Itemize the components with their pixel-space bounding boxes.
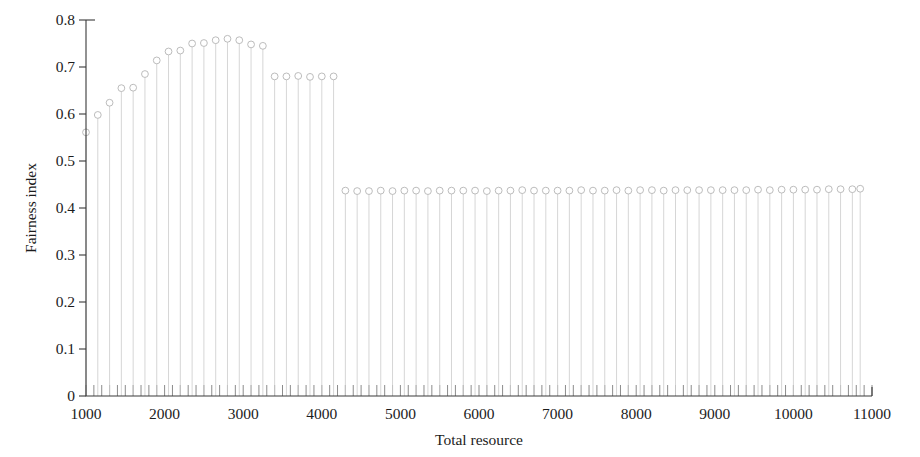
stem-marker xyxy=(554,187,561,194)
stem-series xyxy=(83,35,864,396)
x-tick-label: 6000 xyxy=(464,405,495,422)
stem-marker xyxy=(696,187,703,194)
stem-marker xyxy=(401,187,408,194)
stem-marker xyxy=(425,188,432,195)
x-axis-ticks: 1000200030004000500060007000800090001000… xyxy=(71,405,892,422)
stem-marker xyxy=(849,186,856,193)
stem-marker xyxy=(354,188,361,195)
x-tick-label: 3000 xyxy=(228,405,259,422)
stem-marker xyxy=(295,73,302,80)
x-tick-label: 4000 xyxy=(306,405,337,422)
chart-page: 00.10.20.30.40.50.60.70.8100020003000400… xyxy=(0,0,920,457)
stem-marker xyxy=(460,187,467,194)
stem-marker xyxy=(731,187,738,194)
stem-marker xyxy=(495,187,502,194)
chart-canvas: 00.10.20.30.40.50.60.70.8100020003000400… xyxy=(0,0,920,457)
stem-marker xyxy=(519,187,526,194)
stem-marker xyxy=(743,187,750,194)
y-tick-label: 0.7 xyxy=(56,58,76,75)
stem-marker xyxy=(719,187,726,194)
stem-marker xyxy=(637,187,644,194)
y-tick-label: 0.5 xyxy=(56,152,76,169)
x-tick-label: 5000 xyxy=(385,405,416,422)
stem-marker xyxy=(389,188,396,195)
x-tick-label: 1000 xyxy=(71,405,102,422)
stem-marker xyxy=(542,187,549,194)
x-tick-label: 2000 xyxy=(149,405,180,422)
x-tick-label: 9000 xyxy=(699,405,730,422)
stem-marker xyxy=(377,187,384,194)
stem-marker xyxy=(130,84,137,91)
stem-marker xyxy=(531,187,538,194)
stem-marker xyxy=(307,73,314,80)
stem-marker xyxy=(283,73,290,80)
stem-marker xyxy=(201,40,208,47)
stem-marker xyxy=(413,187,420,194)
stem-marker xyxy=(259,42,266,49)
y-tick-label: 0.6 xyxy=(56,105,76,122)
stem-marker xyxy=(436,187,443,194)
stem-marker xyxy=(118,85,125,92)
stem-marker xyxy=(684,187,691,194)
stem-marker xyxy=(165,48,172,55)
stem-marker xyxy=(649,187,656,194)
y-tick-label: 0 xyxy=(67,387,75,404)
stem-marker xyxy=(330,73,337,80)
stem-marker xyxy=(189,40,196,47)
y-tick-label: 0.4 xyxy=(56,199,76,216)
x-tick-label: 10000 xyxy=(774,405,813,422)
stem-marker xyxy=(472,187,479,194)
stem-marker xyxy=(578,187,585,194)
stem-marker xyxy=(790,186,797,193)
stem-marker xyxy=(857,185,864,192)
y-tick-label: 0.2 xyxy=(56,293,75,310)
stem-marker xyxy=(342,187,349,194)
stem-marker xyxy=(366,188,373,195)
stem-marker xyxy=(236,37,243,44)
y-tick-label: 0.3 xyxy=(56,246,76,263)
stem-marker xyxy=(707,187,714,194)
stem-marker xyxy=(766,187,773,194)
stem-marker xyxy=(448,187,455,194)
stem-marker xyxy=(153,57,160,64)
stem-marker xyxy=(590,187,597,194)
stem-marker xyxy=(142,71,149,78)
stem-marker xyxy=(802,186,809,193)
x-axis-title: Total resource xyxy=(435,431,523,448)
stem-marker xyxy=(271,73,278,80)
stem-marker xyxy=(613,187,620,194)
y-axis-ticks: 00.10.20.30.40.50.60.70.8 xyxy=(56,11,86,404)
stem-marker xyxy=(625,187,632,194)
stem-marker xyxy=(755,186,762,193)
y-axis-title: Fairness index xyxy=(22,163,39,253)
x-tick-label: 8000 xyxy=(621,405,652,422)
y-tick-label: 0.1 xyxy=(56,340,75,357)
stem-marker xyxy=(660,187,667,194)
stem-marker xyxy=(778,186,785,193)
stem-marker xyxy=(224,35,231,42)
stem-marker xyxy=(318,73,325,80)
stem-marker xyxy=(837,186,844,193)
stem-marker xyxy=(672,187,679,194)
stem-marker xyxy=(248,41,255,48)
stem-marker xyxy=(94,112,101,119)
stem-marker xyxy=(483,188,490,195)
stem-marker xyxy=(212,37,219,44)
stem-marker xyxy=(566,187,573,194)
stem-marker xyxy=(814,186,821,193)
stem-marker xyxy=(106,99,113,106)
stem-plot-figure: 00.10.20.30.40.50.60.70.8100020003000400… xyxy=(0,0,920,457)
x-tick-label: 7000 xyxy=(542,405,573,422)
stem-marker xyxy=(825,186,832,193)
stem-marker xyxy=(507,187,514,194)
stem-marker xyxy=(177,47,184,54)
x-tick-label: 11000 xyxy=(853,405,891,422)
y-tick-label: 0.8 xyxy=(56,11,76,28)
stem-marker xyxy=(601,187,608,194)
